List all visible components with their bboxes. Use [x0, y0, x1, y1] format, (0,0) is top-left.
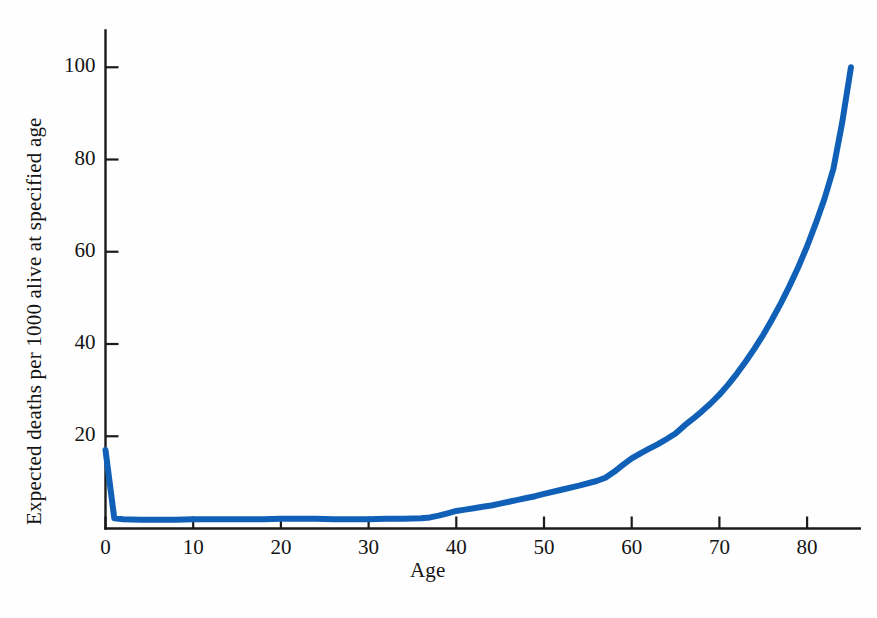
chart-figure: 2040608010001020304050607080 Expected de…	[0, 0, 877, 618]
series-line-0	[106, 67, 851, 519]
x-tick-label: 0	[84, 535, 128, 560]
x-tick-label: 50	[522, 535, 566, 560]
x-tick-label: 80	[785, 535, 829, 560]
x-tick-label: 30	[347, 535, 391, 560]
x-tick-label: 10	[171, 535, 215, 560]
x-tick-label: 70	[697, 535, 741, 560]
x-tick-label: 60	[610, 535, 654, 560]
x-tick-label: 20	[259, 535, 303, 560]
data-series-line	[106, 67, 851, 519]
axis-lines	[106, 30, 860, 528]
y-axis-label: Expected deaths per 1000 alive at specif…	[22, 25, 52, 525]
x-tick-label: 40	[434, 535, 478, 560]
tick-marks	[106, 67, 808, 528]
chart-plot-area	[0, 0, 877, 618]
x-axis-label: Age	[410, 558, 446, 583]
